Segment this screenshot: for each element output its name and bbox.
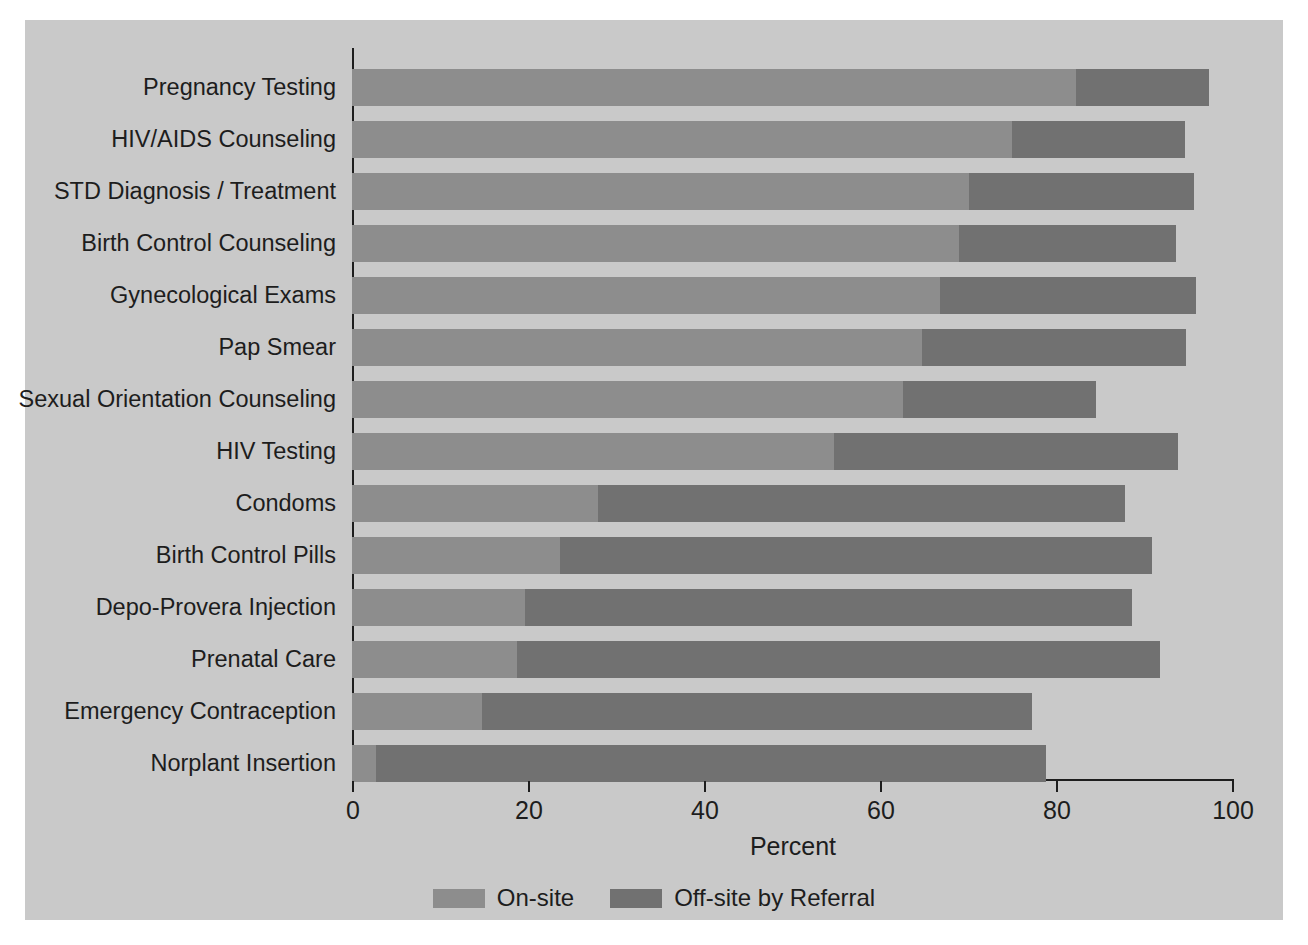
- bar-segment-off-site[interactable]: [1076, 69, 1209, 106]
- bar-segment-off-site[interactable]: [922, 329, 1186, 366]
- bar-segment-off-site[interactable]: [525, 589, 1131, 626]
- bar-row[interactable]: [352, 693, 1032, 730]
- category-label-column: Pregnancy TestingHIV/AIDS CounselingSTD …: [25, 48, 336, 778]
- bar-segment-on-site[interactable]: [352, 329, 922, 366]
- bar-row[interactable]: [352, 537, 1152, 574]
- bar-segment-off-site[interactable]: [959, 225, 1175, 262]
- x-axis-tick: [352, 781, 354, 792]
- bar-row[interactable]: [352, 225, 1176, 262]
- x-axis-tick: [1232, 781, 1234, 792]
- category-label: STD Diagnosis / Treatment: [54, 180, 336, 204]
- bar-row[interactable]: [352, 641, 1160, 678]
- legend-item-off-site[interactable]: Off-site by Referral: [610, 884, 875, 912]
- x-axis-tick: [880, 781, 882, 792]
- bar-row[interactable]: [352, 745, 1046, 782]
- x-axis-tick-label: 100: [1212, 796, 1254, 825]
- x-axis-title: Percent: [352, 832, 1234, 861]
- bar-segment-on-site[interactable]: [352, 69, 1076, 106]
- x-axis-tick-label: 0: [346, 796, 360, 825]
- bar-segment-on-site[interactable]: [352, 381, 903, 418]
- category-label: Pregnancy Testing: [143, 76, 336, 100]
- bar-segment-off-site[interactable]: [834, 433, 1178, 470]
- category-label: Condoms: [235, 492, 336, 516]
- x-axis-tick-label: 20: [515, 796, 543, 825]
- bar-row[interactable]: [352, 381, 1096, 418]
- bar-row[interactable]: [352, 173, 1194, 210]
- legend-label-off-site: Off-site by Referral: [674, 884, 875, 912]
- bar-segment-on-site[interactable]: [352, 121, 1012, 158]
- category-label: Birth Control Counseling: [81, 232, 336, 256]
- x-axis-tick: [1056, 781, 1058, 792]
- bar-row[interactable]: [352, 433, 1178, 470]
- x-axis-tick-label: 80: [1043, 796, 1071, 825]
- category-label: HIV/AIDS Counseling: [111, 128, 336, 152]
- bar-row[interactable]: [352, 121, 1185, 158]
- bar-segment-on-site[interactable]: [352, 433, 834, 470]
- legend-label-on-site: On-site: [497, 884, 574, 912]
- bar-segment-off-site[interactable]: [940, 277, 1196, 314]
- legend-swatch-on-site-icon: [433, 889, 485, 908]
- category-label: Sexual Orientation Counseling: [19, 388, 336, 412]
- bar-segment-on-site[interactable]: [352, 277, 940, 314]
- category-label: HIV Testing: [216, 440, 336, 464]
- bar-segment-on-site[interactable]: [352, 485, 598, 522]
- bar-row[interactable]: [352, 277, 1196, 314]
- bar-segment-on-site[interactable]: [352, 745, 376, 782]
- bar-segment-on-site[interactable]: [352, 537, 560, 574]
- bar-segment-on-site[interactable]: [352, 173, 969, 210]
- x-axis-tick-label: 40: [691, 796, 719, 825]
- bar-segment-off-site[interactable]: [903, 381, 1097, 418]
- bar-segment-on-site[interactable]: [352, 589, 525, 626]
- x-axis-tick: [704, 781, 706, 792]
- bar-row[interactable]: [352, 69, 1209, 106]
- legend-swatch-off-site-icon: [610, 889, 662, 908]
- chart-legend: On-site Off-site by Referral: [25, 884, 1283, 912]
- bar-row[interactable]: [352, 485, 1125, 522]
- category-label: Depo-Provera Injection: [96, 596, 336, 620]
- bar-segment-off-site[interactable]: [376, 745, 1047, 782]
- bar-segment-off-site[interactable]: [517, 641, 1160, 678]
- bar-segment-on-site[interactable]: [352, 641, 517, 678]
- bar-row[interactable]: [352, 589, 1132, 626]
- bar-segment-on-site[interactable]: [352, 225, 959, 262]
- category-label: Norplant Insertion: [151, 752, 337, 776]
- bar-segment-off-site[interactable]: [482, 693, 1032, 730]
- bar-segment-off-site[interactable]: [1012, 121, 1185, 158]
- category-label: Prenatal Care: [191, 648, 336, 672]
- x-axis-tick: [528, 781, 530, 792]
- x-axis-tick-label: 60: [867, 796, 895, 825]
- plot-area: [352, 48, 1233, 778]
- bar-segment-off-site[interactable]: [560, 537, 1152, 574]
- category-label: Pap Smear: [218, 336, 336, 360]
- category-label: Emergency Contraception: [64, 700, 336, 724]
- category-label: Gynecological Exams: [110, 284, 336, 308]
- category-label: Birth Control Pills: [156, 544, 336, 568]
- legend-item-on-site[interactable]: On-site: [433, 884, 574, 912]
- chart-figure: Pregnancy TestingHIV/AIDS CounselingSTD …: [25, 20, 1283, 920]
- bar-segment-off-site[interactable]: [598, 485, 1124, 522]
- bar-segment-off-site[interactable]: [969, 173, 1194, 210]
- bar-row[interactable]: [352, 329, 1186, 366]
- bar-segment-on-site[interactable]: [352, 693, 482, 730]
